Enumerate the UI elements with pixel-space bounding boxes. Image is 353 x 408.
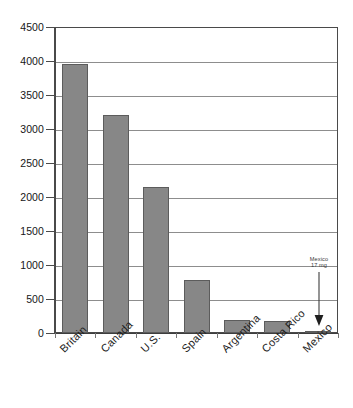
y-tick-mark bbox=[46, 61, 54, 62]
y-tick-mark bbox=[46, 95, 54, 96]
y-tick-label: 500 bbox=[0, 294, 44, 305]
bar bbox=[184, 280, 210, 333]
x-tick-mark bbox=[298, 333, 299, 338]
y-tick-label: 4000 bbox=[0, 56, 44, 67]
y-tick-label: 3000 bbox=[0, 124, 44, 135]
y-tick-mark bbox=[46, 265, 54, 266]
annotation-arrow-icon bbox=[311, 272, 327, 330]
y-tick-label: 2500 bbox=[0, 158, 44, 169]
y-tick-mark bbox=[46, 27, 54, 28]
y-tick-mark bbox=[46, 333, 54, 334]
x-tick-mark bbox=[176, 333, 177, 338]
y-tick-label: 1000 bbox=[0, 260, 44, 271]
y-tick-mark bbox=[46, 197, 54, 198]
x-axis-labels: BritainCanadaU.S.SpainArgentinaCosta Ric… bbox=[0, 333, 353, 408]
y-tick-mark bbox=[46, 163, 54, 164]
x-tick-mark bbox=[338, 333, 339, 338]
y-tick-label: 4500 bbox=[0, 22, 44, 33]
y-tick-mark bbox=[46, 129, 54, 130]
bar-chart: 050010001500200025003000350040004500 Bri… bbox=[0, 0, 353, 408]
bar bbox=[103, 115, 129, 333]
x-tick-mark bbox=[136, 333, 137, 338]
y-tick-label: 1500 bbox=[0, 226, 44, 237]
bar bbox=[143, 187, 169, 333]
bar bbox=[62, 64, 88, 333]
x-tick-mark bbox=[55, 333, 56, 338]
x-tick-label: U.S. bbox=[139, 331, 162, 354]
x-tick-mark bbox=[217, 333, 218, 338]
y-tick-mark bbox=[46, 299, 54, 300]
annotation-value: 17 mg bbox=[296, 262, 342, 268]
bars-layer bbox=[55, 27, 338, 333]
y-tick-label: 2000 bbox=[0, 192, 44, 203]
x-tick-mark bbox=[257, 333, 258, 338]
y-tick-label: 3500 bbox=[0, 90, 44, 101]
x-tick-mark bbox=[95, 333, 96, 338]
mexico-annotation: Mexico 17 mg bbox=[296, 256, 342, 269]
y-tick-mark bbox=[46, 231, 54, 232]
